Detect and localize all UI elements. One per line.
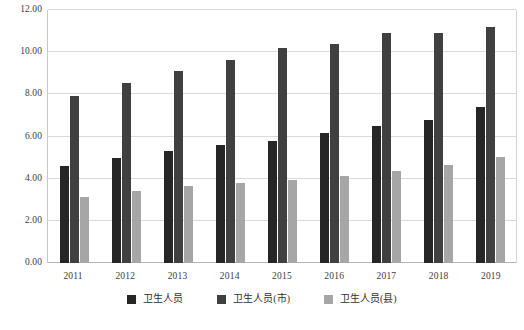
bar-group-2012: [100, 10, 152, 263]
bar-2018-series1: [424, 120, 433, 263]
y-tick-label: 0.00: [25, 258, 42, 268]
bar-2013-series1: [164, 151, 173, 263]
chart-caption: [0, 320, 524, 330]
bar-group-2014: [204, 10, 256, 263]
bar-slot: [112, 10, 141, 263]
y-axis-labels: 0.002.004.006.008.0010.0012.00: [0, 10, 42, 263]
legend-label: 卫生人员(市): [233, 294, 290, 304]
bar-2019-series1: [476, 107, 485, 263]
bar-2014-series3: [236, 183, 245, 263]
bar-group-2019: [464, 10, 516, 263]
bar-2014-series2: [226, 60, 235, 263]
bar-slot: [60, 10, 89, 263]
bar-2015-series2: [278, 48, 287, 263]
bar-2015-series1: [268, 141, 277, 263]
bar-slot: [216, 10, 245, 263]
x-tick-label-2015: 2015: [256, 267, 308, 285]
bar-slot: [372, 10, 401, 263]
bar-chart: 0.002.004.006.008.0010.0012.00 201120122…: [0, 0, 524, 330]
x-tick-label-2019: 2019: [465, 267, 517, 285]
x-axis-labels: 201120122013201420152016201720182019: [47, 267, 517, 285]
bar-2012-series2: [122, 83, 131, 263]
bar-2016-series1: [320, 133, 329, 263]
x-tick-label-2014: 2014: [204, 267, 256, 285]
bar-slot: [268, 10, 297, 263]
bar-slot: [424, 10, 453, 263]
legend-label: 卫生人员: [143, 294, 183, 304]
x-tick-label-2016: 2016: [308, 267, 360, 285]
bar-group-2011: [48, 10, 100, 263]
bar-2011-series2: [70, 96, 79, 263]
legend-item-3[interactable]: 卫生人员(县): [324, 294, 397, 304]
x-tick-label-2017: 2017: [360, 267, 412, 285]
y-tick-label: 12.00: [20, 5, 42, 15]
legend-label: 卫生人员(县): [340, 294, 397, 304]
bar-slot: [320, 10, 349, 263]
y-tick-label: 2.00: [25, 216, 42, 226]
bar-2019-series2: [486, 27, 495, 263]
y-tick-label: 8.00: [25, 90, 42, 100]
bar-2017-series3: [392, 171, 401, 263]
bar-2017-series2: [382, 33, 391, 263]
bar-2017-series1: [372, 126, 381, 263]
x-tick-label-2011: 2011: [47, 267, 99, 285]
bar-2016-series2: [330, 44, 339, 263]
legend-swatch-icon: [127, 295, 136, 304]
y-tick-label: 4.00: [25, 174, 42, 184]
bar-group-2017: [360, 10, 412, 263]
y-tick-label: 10.00: [20, 47, 42, 57]
bar-groups: [48, 10, 516, 263]
bar-2012-series1: [112, 158, 121, 263]
x-tick-label-2012: 2012: [99, 267, 151, 285]
x-tick-label-2013: 2013: [151, 267, 203, 285]
x-tick-label-2018: 2018: [413, 267, 465, 285]
bar-2012-series3: [132, 191, 141, 263]
legend-swatch-icon: [324, 295, 333, 304]
bar-2016-series3: [340, 176, 349, 263]
bar-group-2016: [308, 10, 360, 263]
bar-2015-series3: [288, 180, 297, 263]
bar-group-2013: [152, 10, 204, 263]
legend-swatch-icon: [217, 295, 226, 304]
chart-legend: 卫生人员卫生人员(市)卫生人员(县): [0, 290, 524, 308]
legend-item-1[interactable]: 卫生人员: [127, 294, 183, 304]
bar-group-2018: [412, 10, 464, 263]
bar-2018-series2: [434, 33, 443, 263]
y-tick-label: 6.00: [25, 132, 42, 142]
bar-2013-series3: [184, 186, 193, 263]
bar-2011-series3: [80, 197, 89, 263]
bar-slot: [164, 10, 193, 263]
bar-2011-series1: [60, 166, 69, 263]
plot-wrapper: [47, 10, 517, 263]
bar-slot: [476, 10, 505, 263]
bar-2014-series1: [216, 145, 225, 263]
bar-2018-series3: [444, 165, 453, 263]
plot-area: [47, 10, 517, 263]
bar-group-2015: [256, 10, 308, 263]
bar-2019-series3: [496, 157, 505, 263]
legend-item-2[interactable]: 卫生人员(市): [217, 294, 290, 304]
bar-2013-series2: [174, 71, 183, 263]
